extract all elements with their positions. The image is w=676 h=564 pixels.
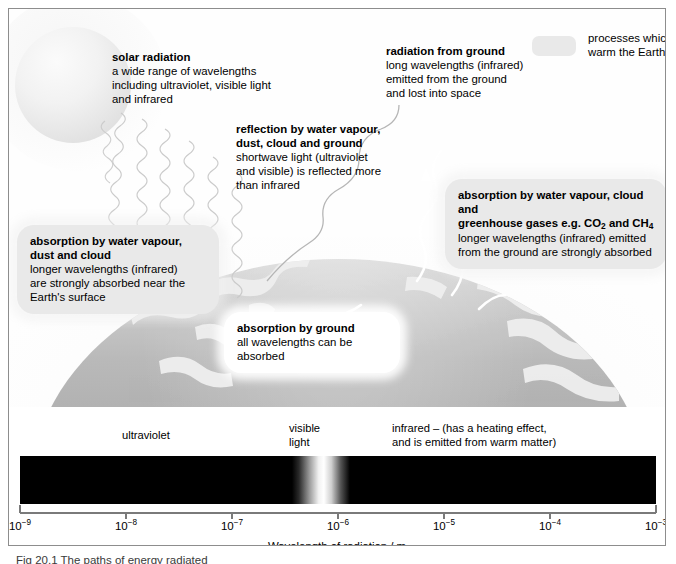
absorption-wdc-heading-line-1: absorption by water vapour, (30, 234, 206, 248)
greenhouse-heading-mid: and CH (606, 217, 649, 229)
visible-label-line-1: visible (289, 422, 320, 436)
spectrum-label-infrared: infrared – (has a heating effect, and is… (392, 422, 556, 449)
legend-label: processes which warm the Earth (588, 31, 665, 59)
reflection-heading-line-2: dust, cloud and ground (236, 136, 381, 150)
axis-tick-mark (443, 512, 445, 519)
greenhouse-heading-pre: greenhouse gases e.g. CO (458, 217, 601, 229)
infrared-label-line-1: infrared – (has a heating effect, (392, 422, 556, 436)
figure-root: solar radiation a wide range of waveleng… (0, 0, 676, 564)
axis-tick-mark (337, 512, 339, 519)
callout-absorption-greenhouse: absorption by water vapour, cloud and gr… (445, 179, 665, 269)
ground-abs-line-2: absorbed (237, 349, 387, 363)
diagram-frame: solar radiation a wide range of waveleng… (8, 8, 666, 546)
solar-line-1: a wide range of wavelengths (112, 64, 271, 78)
axis-tick-label: 10−7 (221, 520, 243, 532)
radiation-ground-heading: radiation from ground (386, 44, 523, 58)
solar-line-2: including ultraviolet, visible light (112, 78, 271, 92)
greenhouse-heading-line-1: absorption by water vapour, cloud and (458, 188, 654, 216)
legend-swatch-warming (532, 36, 576, 56)
spectrum-band-labels: ultraviolet visible light infrared – (ha… (9, 407, 665, 463)
visible-light-band (292, 456, 350, 504)
ch4-subscript: 4 (649, 221, 654, 231)
legend-label-line-2: warm the Earth (588, 45, 665, 59)
absorption-wdc-line-2: are strongly absorbed near the (30, 276, 206, 290)
axis-tick-label: 10−6 (327, 520, 349, 532)
infrared-label-line-2: and is emitted from warm matter) (392, 436, 556, 450)
solar-heading: solar radiation (112, 50, 271, 64)
reflection-line-3: than infrared (236, 178, 381, 192)
figure-caption: Fig 20.1 The paths of energy radiated (16, 554, 416, 564)
ground-abs-line-1: all wavelengths can be (237, 335, 387, 349)
axis-tick-mark (231, 512, 233, 519)
axis-tick-mark (125, 512, 127, 519)
absorption-wdc-line-1: longer wavelengths (infrared) (30, 262, 206, 276)
greenhouse-heading-line-2: greenhouse gases e.g. CO2 and CH4 (458, 216, 654, 231)
absorption-wdc-heading-line-2: dust and cloud (30, 248, 206, 262)
callout-absorption-water-dust-cloud: absorption by water vapour, dust and clo… (17, 225, 219, 314)
axis-tick-label: 10−5 (433, 520, 455, 532)
greenhouse-line-1: longer wavelengths (infrared) emitted (458, 231, 654, 245)
absorption-wdc-line-3: Earth's surface (30, 290, 206, 304)
axis-tick-mark (549, 512, 551, 519)
spectrum-bar (20, 456, 656, 504)
callout-absorption-by-ground: absorption by ground all wavelengths can… (224, 312, 400, 373)
atmosphere-scene: solar radiation a wide range of waveleng… (9, 9, 665, 407)
axis-tick-mark (19, 505, 21, 513)
reflection-heading-line-1: reflection by water vapour, (236, 122, 381, 136)
annotation-radiation-from-ground: radiation from ground long wavelengths (… (386, 44, 523, 100)
axis-title: Wavelength of radiation / m (9, 540, 665, 546)
radiation-ground-line-3: and lost into space (386, 86, 523, 100)
axis-tick-label: 10−8 (115, 520, 137, 532)
co2-subscript: 2 (601, 221, 606, 231)
legend-label-line-1: processes which (588, 31, 665, 45)
axis-tick-label: 10−3 (645, 520, 666, 532)
axis-tick-label: 10−9 (9, 520, 31, 532)
axis-tick-mark (655, 505, 657, 513)
annotation-reflection: reflection by water vapour, dust, cloud … (236, 122, 381, 192)
annotation-solar-radiation: solar radiation a wide range of waveleng… (112, 50, 271, 106)
spectrum-label-ultraviolet: ultraviolet (122, 429, 170, 443)
spectrum-label-visible-light: visible light (289, 422, 320, 449)
axis-tick-label: 10−4 (539, 520, 561, 532)
ground-abs-heading: absorption by ground (237, 321, 387, 335)
reflection-line-2: and visible) is reflected more (236, 164, 381, 178)
greenhouse-line-2: from the ground are strongly absorbed (458, 245, 654, 259)
visible-label-line-2: light (289, 436, 320, 450)
reflection-line-1: shortwave light (ultraviolet (236, 150, 381, 164)
solar-line-3: and infrared (112, 92, 271, 106)
radiation-ground-line-2: emitted from the ground (386, 72, 523, 86)
radiation-ground-line-1: long wavelengths (infrared) (386, 58, 523, 72)
